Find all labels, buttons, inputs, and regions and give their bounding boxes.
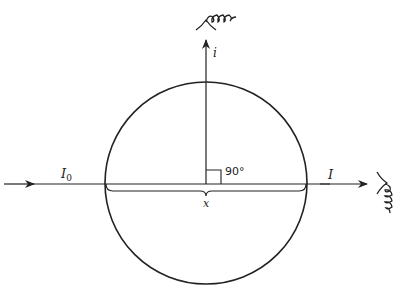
path-length-brace [106,184,306,196]
right-angle-marker [206,170,221,184]
transmitted-label: I [327,167,334,182]
incident-label: I0 [60,166,72,183]
angle-label: 90° [225,165,245,178]
path-length-label: x [203,197,210,210]
detector-coil-top-icon [196,15,236,30]
detector-coil-right-icon [377,172,392,213]
scattering-diagram: I0 I i 90° x [0,0,410,297]
scattered-label: i [213,46,217,60]
